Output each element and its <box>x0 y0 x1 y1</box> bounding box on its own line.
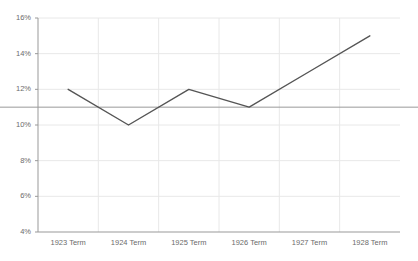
y-axis-tick-label: 16% <box>16 13 31 22</box>
x-axis-tick-label: 1927 Term <box>292 238 327 247</box>
x-axis-tick-label: 1923 Term <box>51 238 86 247</box>
y-axis-tick-label: 8% <box>20 156 31 165</box>
x-axis-tick-label: 1928 Term <box>352 238 387 247</box>
x-axis-tick-label: 1925 Term <box>171 238 206 247</box>
y-axis-tick-label: 12% <box>16 84 31 93</box>
line-chart: 4%6%8%10%12%14%16% 1923 Term1924 Term192… <box>0 0 418 261</box>
chart-container: 4%6%8%10%12%14%16% 1923 Term1924 Term192… <box>0 0 418 261</box>
y-axis-tick-label: 14% <box>16 49 31 58</box>
y-axis-tick-label: 10% <box>16 120 31 129</box>
x-axis-tick-label: 1926 Term <box>232 238 267 247</box>
chart-background <box>0 0 418 261</box>
y-axis-tick-label: 6% <box>20 191 31 200</box>
y-axis-tick-label: 4% <box>20 227 31 236</box>
x-axis-tick-label: 1924 Term <box>111 238 146 247</box>
